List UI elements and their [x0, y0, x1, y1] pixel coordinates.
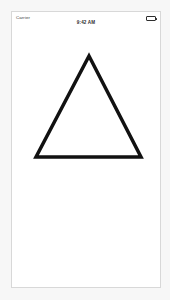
status-bar: Carrier 9:42 AM	[12, 12, 160, 25]
clock-time: 9:42 AM	[77, 20, 96, 25]
triangle-shape	[36, 56, 141, 157]
shape-canvas	[12, 25, 160, 287]
device-frame: Carrier 9:42 AM	[11, 11, 161, 288]
content-area	[12, 25, 160, 287]
carrier-label: Carrier	[16, 16, 30, 20]
battery-full-icon	[146, 16, 156, 21]
status-bar-left-group: Carrier	[16, 16, 37, 21]
wifi-icon	[32, 16, 37, 21]
status-bar-right-group	[146, 16, 156, 21]
